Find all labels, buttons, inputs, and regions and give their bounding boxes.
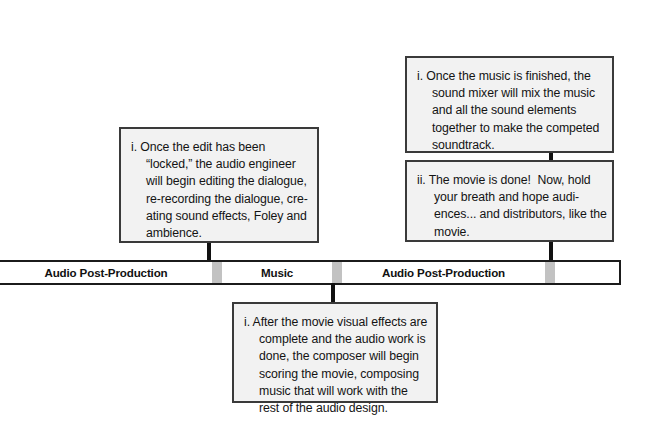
connector-line-mid-right bbox=[549, 242, 553, 261]
callout-line: i. After the movie visual effects are bbox=[244, 314, 424, 331]
timeline-segment-music[interactable]: Music bbox=[222, 262, 332, 283]
callout-line: soundtrack. bbox=[417, 137, 600, 154]
timeline-segment-audio-post-2[interactable]: Audio Post-Production bbox=[342, 262, 545, 283]
callout-line: ating sound effects, Foley and bbox=[131, 208, 305, 225]
timeline-segment-label: Audio Post-Production bbox=[382, 266, 505, 279]
timeline-divider-3 bbox=[545, 262, 555, 283]
callout-line: sound mixer will mix the music bbox=[417, 85, 600, 102]
connector-line-bottom bbox=[331, 283, 335, 303]
timeline-bar: Audio Post-Production Music Audio Post-P… bbox=[0, 260, 621, 285]
callout-line: ii. The movie is done! Now, hold bbox=[417, 172, 600, 189]
callout-line: will begin editing the dialogue, bbox=[131, 173, 305, 190]
callout-line: i. Once the edit has been bbox=[131, 139, 305, 156]
diagram-canvas: i. Once the music is finished, the sound… bbox=[0, 0, 658, 434]
callout-line: ences... and distributors, like the bbox=[417, 206, 600, 223]
callout-line: ambience. bbox=[131, 225, 305, 242]
callout-mix-top-right: i. Once the music is finished, the sound… bbox=[405, 56, 614, 153]
callout-music-bottom: i. After the movie visual effects are co… bbox=[232, 302, 438, 403]
callout-line: “locked,” the audio engineer bbox=[131, 156, 305, 173]
callout-line: scoring the movie, composing bbox=[244, 366, 424, 383]
timeline-segment-label: Audio Post-Production bbox=[44, 266, 167, 279]
callout-line: together to make the competed bbox=[417, 120, 600, 137]
connector-line-left bbox=[207, 243, 211, 261]
callout-movie-done-right: ii. The movie is done! Now, hold your br… bbox=[405, 160, 614, 242]
callout-line: re-recording the dialogue, cre- bbox=[131, 191, 305, 208]
timeline-divider-2 bbox=[332, 262, 342, 283]
callout-line: done, the composer will begin bbox=[244, 348, 424, 365]
callout-line: your breath and hope audi- bbox=[417, 189, 600, 206]
callout-line: i. Once the music is finished, the bbox=[417, 68, 600, 85]
timeline-segment-audio-post-1[interactable]: Audio Post-Production bbox=[0, 262, 212, 283]
timeline-segment-label: Music bbox=[261, 266, 293, 279]
callout-audio-post-left: i. Once the edit has been “locked,” the … bbox=[119, 127, 319, 243]
callout-line: movie. bbox=[417, 224, 600, 241]
timeline-divider-1 bbox=[212, 262, 222, 283]
callout-line: complete and the audio work is bbox=[244, 331, 424, 348]
callout-line: and all the sound elements bbox=[417, 102, 600, 119]
callout-line: music that will work with the bbox=[244, 383, 424, 400]
timeline-segment-trailing[interactable] bbox=[555, 262, 619, 283]
callout-line: rest of the audio design. bbox=[244, 400, 424, 417]
